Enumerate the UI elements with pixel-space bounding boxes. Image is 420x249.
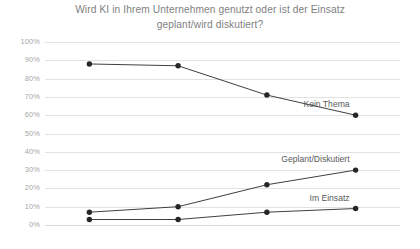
- data-point: [87, 209, 92, 214]
- series-label: Geplant/Diskutiert: [281, 154, 349, 164]
- data-point: [264, 182, 269, 187]
- plot-area: 0%10%20%30%40%50%60%70%80%90%100% 201820…: [45, 42, 400, 225]
- data-point: [353, 167, 358, 172]
- data-point: [87, 61, 92, 66]
- data-point: [353, 206, 358, 211]
- y-axis-tick-label: 80%: [0, 74, 40, 83]
- y-axis-tick-label: 30%: [0, 165, 40, 174]
- line-chart: Wird KI in Ihrem Unternehmen genutzt ode…: [0, 0, 420, 249]
- y-axis-tick-label: 0%: [0, 220, 40, 229]
- y-axis-tick-label: 40%: [0, 147, 40, 156]
- chart-title: Wird KI in Ihrem Unternehmen genutzt ode…: [52, 3, 368, 32]
- gridline: [45, 225, 400, 226]
- series-label: Kein Thema: [303, 99, 349, 109]
- series-line: [89, 170, 355, 212]
- data-point: [87, 217, 92, 222]
- y-axis-tick-label: 10%: [0, 202, 40, 211]
- y-axis-tick-label: 70%: [0, 92, 40, 101]
- data-point: [175, 217, 180, 222]
- data-point: [175, 63, 180, 68]
- data-point: [353, 113, 358, 118]
- y-axis-tick-label: 20%: [0, 183, 40, 192]
- data-point: [264, 209, 269, 214]
- y-axis-tick-label: 90%: [0, 55, 40, 64]
- data-point: [175, 204, 180, 209]
- y-axis-tick-label: 60%: [0, 110, 40, 119]
- y-axis-tick-label: 100%: [0, 37, 40, 46]
- series-label: Im Einsatz: [310, 193, 350, 203]
- y-axis-tick-label: 50%: [0, 129, 40, 138]
- data-point: [264, 92, 269, 97]
